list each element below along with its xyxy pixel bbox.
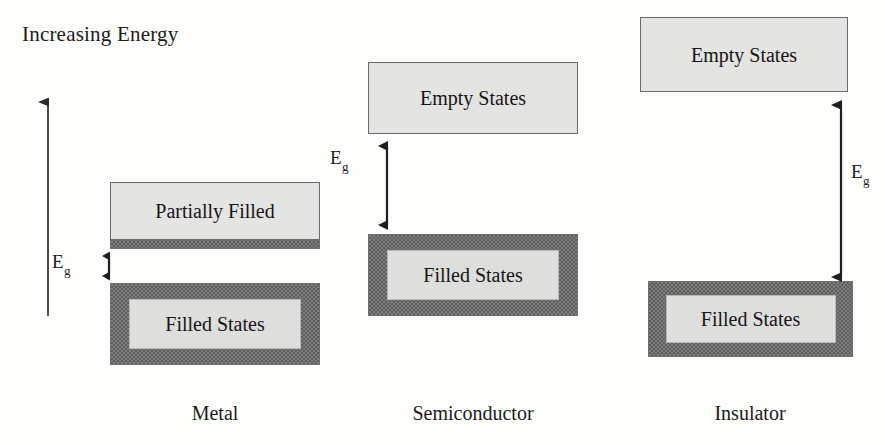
band-semiconductor-empty: Empty States [368,62,578,134]
band-plate-semiconductor-filled: Filled States [387,250,559,300]
gap-label-insulator: Eg [851,162,869,185]
band-metal-partially-filled: Partially Filled [110,182,320,240]
band-insulator-empty: Empty States [640,17,848,92]
band-metal-partially-filled-edge [110,240,320,249]
band-label-insulator-empty: Empty States [691,45,797,65]
increasing-energy-label: Increasing Energy [22,22,178,47]
gap-symbol-semiconductor: E [330,147,342,168]
band-label-semiconductor-filled: Filled States [423,265,522,285]
band-label-metal-filled: Filled States [165,314,264,334]
band-plate-insulator-filled: Filled States [666,295,836,343]
gap-arrow-semiconductor [376,136,398,234]
increasing-energy-arrow [36,90,60,316]
gap-subscript-insulator: g [863,173,870,188]
band-insulator-filled: Filled States [648,281,853,357]
band-structure-diagram: Increasing Energy Partially Filled Fille… [0,0,885,445]
band-label-metal-partially-filled: Partially Filled [155,201,274,221]
caption-metal: Metal [110,402,320,425]
gap-label-semiconductor: Eg [330,148,348,171]
gap-subscript-metal: g [64,263,71,278]
caption-semiconductor: Semiconductor [368,402,578,425]
gap-symbol-metal: E [52,251,64,272]
gap-label-metal: Eg [52,252,70,275]
band-label-semiconductor-empty: Empty States [420,88,526,108]
band-plate-metal-filled: Filled States [129,299,301,349]
band-metal-filled: Filled States [110,283,320,365]
gap-symbol-insulator: E [851,161,863,182]
gap-arrow-metal [98,247,120,287]
band-semiconductor-filled: Filled States [368,234,578,316]
caption-insulator: Insulator [646,402,854,425]
band-label-insulator-filled: Filled States [701,309,800,329]
gap-subscript-semiconductor: g [342,159,349,174]
gap-arrow-insulator [830,94,852,288]
